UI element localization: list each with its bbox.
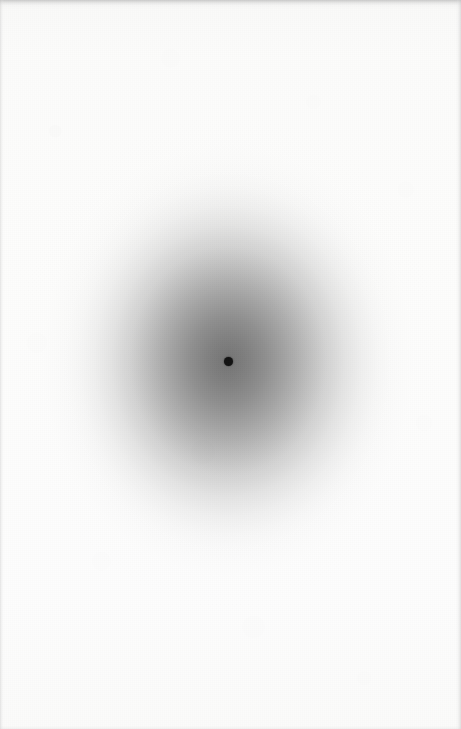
scan-edge-top <box>0 0 461 7</box>
scan-edge-left <box>0 0 4 729</box>
scanned-plate <box>0 0 461 729</box>
scan-edge-right <box>456 0 461 729</box>
fixation-dot <box>224 357 233 366</box>
